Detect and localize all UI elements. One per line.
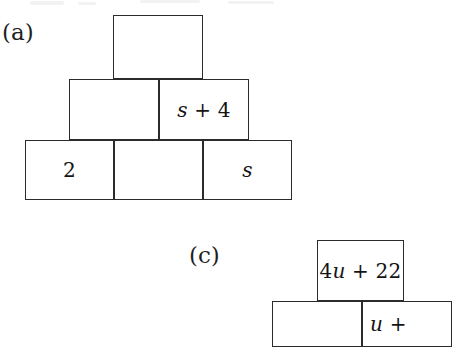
pyramid-a-brick-bottom-left[interactable]: 2 xyxy=(25,140,114,200)
variable-s: s xyxy=(242,158,252,182)
pyramid-a-brick-top[interactable] xyxy=(113,15,203,79)
scan-artifact xyxy=(30,1,64,5)
pyramid-a-brick-middle-right[interactable]: s + 4 xyxy=(159,79,249,140)
variable-u: u xyxy=(332,259,345,283)
brick-expression: u + xyxy=(363,314,407,334)
brick-expression: 4u + 22 xyxy=(320,261,402,281)
brick-expression: s xyxy=(242,160,252,180)
variable-s: s xyxy=(177,98,187,122)
part-label-c: (c) xyxy=(189,244,220,267)
pyramid-a-brick-bottom-right[interactable]: s xyxy=(203,140,292,200)
pyramid-c-brick-second-right[interactable]: u + xyxy=(362,301,452,347)
part-label-a: (a) xyxy=(2,21,34,44)
pyramid-a-brick-bottom-middle[interactable] xyxy=(114,140,203,200)
brick-expression: 2 xyxy=(63,160,76,180)
brick-expression: s + 4 xyxy=(177,100,230,120)
scan-artifact xyxy=(140,0,200,3)
pyramid-c-brick-second-left[interactable] xyxy=(272,301,362,347)
scan-artifact xyxy=(228,1,274,4)
pyramid-c-brick-top[interactable]: 4u + 22 xyxy=(317,240,404,301)
variable-u: u xyxy=(370,312,383,336)
pyramid-a-brick-middle-left[interactable] xyxy=(69,79,159,140)
scan-artifact xyxy=(78,2,96,5)
